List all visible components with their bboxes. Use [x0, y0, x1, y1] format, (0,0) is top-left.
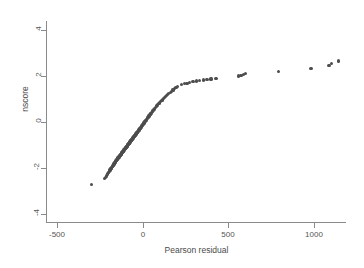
- data-point: [330, 62, 333, 65]
- y-axis-tick-label-text: 2: [33, 72, 42, 76]
- x-axis-tick: [143, 223, 144, 228]
- scatter-plot-figure: nscore Pearson residual -4-2024-50005001…: [0, 0, 364, 268]
- data-point: [244, 72, 247, 75]
- y-axis-tick-label: -2: [12, 162, 40, 171]
- x-axis-tick-label: 500: [208, 230, 248, 239]
- y-axis-tick-label-text: -4: [32, 209, 41, 216]
- data-point: [90, 183, 93, 186]
- data-point: [277, 70, 280, 73]
- data-point: [202, 78, 205, 81]
- data-point: [176, 85, 179, 88]
- data-point: [209, 77, 212, 80]
- data-point: [309, 67, 312, 70]
- y-axis-title-text: nscore: [20, 86, 30, 112]
- y-axis-title: nscore: [12, 94, 26, 104]
- x-axis-tick-label: -500: [37, 230, 77, 239]
- x-axis-title: Pearson residual: [47, 245, 346, 255]
- data-point: [215, 77, 218, 80]
- x-axis-tick-label: 1000: [294, 230, 334, 239]
- data-point: [198, 79, 201, 82]
- x-axis-tick-label: 0: [123, 230, 163, 239]
- y-axis-tick-label: 4: [12, 24, 40, 33]
- x-axis-tick: [228, 223, 229, 228]
- data-point: [337, 59, 340, 62]
- x-axis-tick: [57, 223, 58, 228]
- y-axis-tick: [41, 214, 46, 215]
- y-axis-tick-label-text: 4: [33, 26, 42, 30]
- x-axis-tick: [314, 223, 315, 228]
- data-point: [205, 78, 208, 81]
- y-axis-tick-label: 2: [12, 70, 40, 79]
- y-axis-tick-label: -4: [12, 208, 40, 217]
- plot-area: [47, 22, 346, 222]
- x-axis-line: [46, 222, 346, 223]
- y-axis-tick-label-text: -2: [32, 163, 41, 170]
- y-axis-tick: [41, 168, 46, 169]
- y-axis-tick-label-text: 0: [33, 118, 42, 122]
- y-axis-tick-label: 0: [12, 116, 40, 125]
